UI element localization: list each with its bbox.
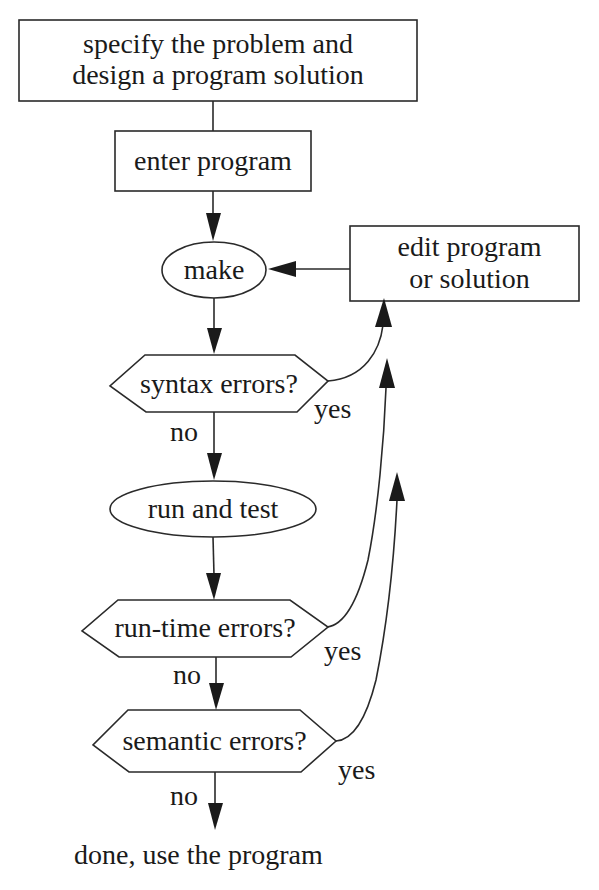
arrowhead-down-icon — [206, 573, 221, 600]
edit-label-line2: or solution — [360, 264, 579, 294]
flowchart-canvas — [0, 0, 599, 890]
arrow-run-runtime — [213, 537, 214, 575]
semantic-no-label: no — [170, 781, 198, 811]
arrowhead-up-icon — [389, 472, 405, 501]
arrowhead-down-icon — [209, 683, 224, 710]
arrowhead-down-icon — [208, 803, 223, 830]
arrowhead-down-icon — [207, 453, 222, 480]
edit-label-line1: edit program — [360, 232, 579, 262]
arrowhead-up-icon — [379, 358, 395, 388]
runtime-errors-label: run-time errors? — [82, 613, 328, 643]
run-and-test-label: run and test — [110, 494, 316, 524]
syntax-no-label: no — [170, 417, 198, 447]
syntax-errors-label: syntax errors? — [110, 369, 328, 399]
curve-syntax-edit — [328, 325, 383, 381]
runtime-no-label: no — [173, 660, 201, 690]
semantic-yes-label: yes — [338, 755, 375, 785]
done-label: done, use the program — [74, 840, 323, 870]
arrowhead-down-icon — [206, 213, 221, 241]
curve-semantic-edit — [336, 500, 397, 741]
syntax-yes-label: yes — [314, 394, 351, 424]
enter-program-label: enter program — [115, 146, 311, 176]
arrowhead-down-icon — [207, 328, 222, 354]
arrowhead-up-icon — [375, 298, 392, 327]
semantic-errors-label: semantic errors? — [93, 726, 336, 756]
specify-label-line2: design a program solution — [19, 60, 417, 90]
runtime-yes-label: yes — [324, 636, 361, 666]
make-label: make — [162, 255, 266, 285]
arrowhead-left-icon — [268, 261, 296, 277]
specify-label-line1: specify the problem and — [19, 29, 417, 59]
